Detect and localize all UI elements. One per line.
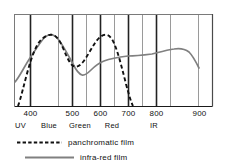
band-label-uv: UV bbox=[8, 121, 33, 130]
x-tick-label-500: 500 bbox=[60, 109, 85, 118]
spectral-sensitivity-figure: 400 500 600 700 800 900 UV Blue Green Re… bbox=[0, 0, 229, 168]
legend-swatches bbox=[17, 143, 74, 158]
x-tick-label-600: 600 bbox=[88, 109, 113, 118]
major-gridlines bbox=[31, 14, 157, 106]
band-label-green: Green bbox=[64, 121, 96, 130]
series-panchromatic-curve bbox=[18, 35, 133, 106]
x-tick-label-700: 700 bbox=[116, 109, 141, 118]
x-tick-label-400: 400 bbox=[18, 109, 43, 118]
x-tick-label-900: 900 bbox=[187, 109, 212, 118]
band-label-blue: Blue bbox=[35, 121, 63, 130]
series-infrared-curve bbox=[15, 35, 199, 82]
axes-frame bbox=[15, 14, 213, 107]
band-label-ir: IR bbox=[143, 121, 165, 130]
x-tick-label-800: 800 bbox=[144, 109, 169, 118]
band-label-red: Red bbox=[99, 121, 125, 130]
legend-label-panchromatic: panchromatic film bbox=[68, 138, 134, 147]
legend-label-infrared: infra-red film bbox=[80, 153, 127, 162]
